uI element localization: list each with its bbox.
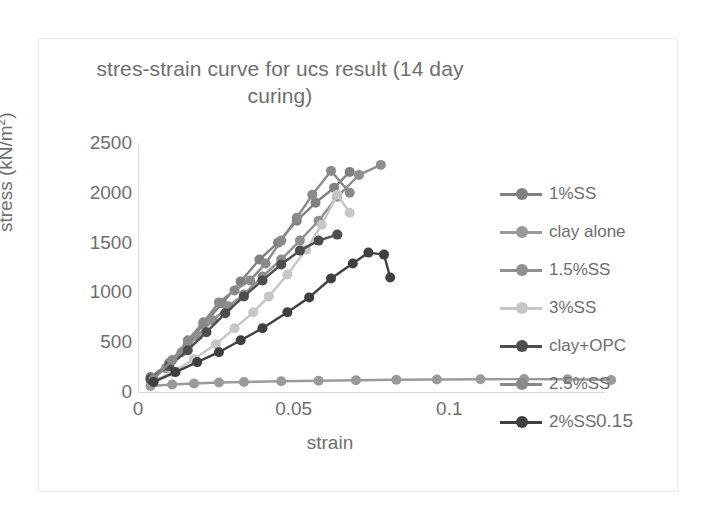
y-tick-label: 2000 <box>62 182 132 204</box>
data-point <box>376 160 386 170</box>
series-2-5-ss <box>149 166 355 384</box>
data-point <box>264 291 274 301</box>
data-point <box>214 297 224 307</box>
legend-item-2-ss[interactable]: 2%SS <box>500 403 685 441</box>
legend-marker-icon <box>500 187 542 201</box>
data-point <box>239 291 249 301</box>
data-point <box>317 220 327 230</box>
data-point <box>236 335 246 345</box>
data-point <box>220 308 230 318</box>
data-point <box>258 323 268 333</box>
data-point <box>282 307 292 317</box>
data-point <box>326 166 336 176</box>
data-point <box>192 357 202 367</box>
data-point <box>230 323 240 333</box>
data-point <box>295 246 305 256</box>
data-point <box>198 317 208 327</box>
data-point <box>183 335 193 345</box>
legend-label: clay alone <box>549 222 626 242</box>
data-point <box>239 377 249 387</box>
data-point <box>214 378 224 388</box>
data-point <box>326 274 336 284</box>
legend-item-1-5-ss[interactable]: 1.5%SS <box>500 251 685 289</box>
legend-label: 3%SS <box>549 298 596 318</box>
data-point <box>214 347 224 357</box>
y-axis-label: stress (kN/m2) <box>0 112 17 232</box>
data-point <box>432 375 442 385</box>
legend-dot <box>516 340 528 352</box>
legend-label: 2%SS <box>549 412 596 432</box>
y-tick-label: 0 <box>62 381 132 403</box>
data-point <box>363 248 373 258</box>
legend-label: 1%SS <box>549 184 596 204</box>
legend-dot <box>516 188 528 200</box>
legend-dot <box>516 378 528 390</box>
data-point <box>345 208 355 218</box>
data-point <box>379 250 389 260</box>
legend-marker-icon <box>500 339 542 353</box>
data-point <box>167 355 177 365</box>
chart-legend: 1%SSclay alone1.5%SS3%SSclay+OPC2.5%SS2%… <box>500 175 685 441</box>
legend-marker-icon <box>500 263 542 277</box>
legend-marker-icon <box>500 415 542 429</box>
data-point <box>261 259 271 269</box>
data-point <box>149 377 159 387</box>
data-point <box>295 236 305 246</box>
y-tick-label: 500 <box>62 331 132 353</box>
data-point <box>292 213 302 223</box>
legend-item-3-ss[interactable]: 3%SS <box>500 289 685 327</box>
y-tick-label: 2500 <box>62 132 132 154</box>
data-point <box>258 275 268 285</box>
chart-root: stres-strain curve for ucs result (14 da… <box>0 0 706 521</box>
data-point <box>276 236 286 246</box>
legend-dot <box>516 302 528 314</box>
data-point <box>189 379 199 389</box>
data-point <box>248 307 258 317</box>
data-point <box>385 273 395 283</box>
data-point <box>304 292 314 302</box>
legend-marker-icon <box>500 301 542 315</box>
legend-marker-icon <box>500 225 542 239</box>
chart-title: stres-strain curve for ucs result (14 da… <box>70 55 490 110</box>
data-point <box>332 190 342 200</box>
data-point <box>391 375 401 385</box>
data-point <box>276 376 286 386</box>
y-tick-label: 1000 <box>62 281 132 303</box>
data-point <box>230 285 240 295</box>
legend-item-2-5-ss[interactable]: 2.5%SS <box>500 365 685 403</box>
data-point <box>476 374 486 384</box>
data-point <box>245 275 255 285</box>
legend-dot <box>516 416 528 428</box>
legend-label: 1.5%SS <box>549 260 610 280</box>
legend-item-1-ss[interactable]: 1%SS <box>500 175 685 213</box>
data-point <box>314 376 324 386</box>
x-tick-label: 0 <box>133 398 144 420</box>
x-axis-label: strain <box>250 432 410 454</box>
data-point <box>348 259 358 269</box>
legend-dot <box>516 226 528 238</box>
series-1-ss <box>146 167 355 382</box>
legend-label: clay+OPC <box>549 336 626 356</box>
x-tick-015: 0.15 <box>596 410 633 432</box>
legend-item-clay-opc[interactable]: clay+OPC <box>500 327 685 365</box>
data-point <box>332 230 342 240</box>
data-point <box>307 190 317 200</box>
y-axis-ticks: 05001000150020002500 <box>62 143 132 393</box>
data-point <box>351 375 361 385</box>
x-tick-label: 0.05 <box>275 398 312 420</box>
data-point <box>202 327 212 337</box>
data-point <box>276 260 286 270</box>
x-tick-label: 0.1 <box>436 398 462 420</box>
legend-marker-icon <box>500 377 542 391</box>
legend-label: 2.5%SS <box>549 374 610 394</box>
y-tick-label: 1500 <box>62 232 132 254</box>
legend-dot <box>516 264 528 276</box>
data-point <box>314 236 324 246</box>
legend-item-clay-alone[interactable]: clay alone <box>500 213 685 251</box>
data-point <box>282 270 292 280</box>
data-point <box>354 170 364 180</box>
data-point <box>345 167 355 177</box>
data-point <box>170 367 180 377</box>
data-point <box>183 345 193 355</box>
data-point <box>167 380 177 390</box>
